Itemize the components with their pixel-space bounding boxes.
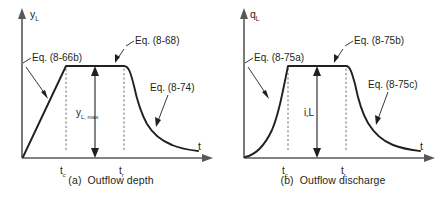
panel-outflow-discharge: qL t i*L Eq. (8-75a) bbox=[222, 0, 444, 201]
i-star-l-label: i*L bbox=[304, 107, 315, 120]
leader-arrowhead-8-75c bbox=[375, 115, 381, 125]
y-l-max-subscript: L, max bbox=[81, 114, 98, 120]
y-axis-group bbox=[18, 8, 26, 158]
y-axis-subscript: L bbox=[35, 15, 39, 22]
leader-tick-8-66b bbox=[23, 58, 31, 63]
annotation-label-8-75a: Eq. (8-75a) bbox=[254, 52, 304, 63]
dimension-arrow-up bbox=[313, 66, 321, 76]
x-axis-group bbox=[22, 154, 213, 162]
leader-arrowhead-8-75a bbox=[262, 90, 269, 99]
y-l-max-dimension-group: yL, max bbox=[76, 66, 99, 158]
y-axis-group bbox=[240, 8, 248, 158]
annotation-label-8-75b: Eq. (8-75b) bbox=[354, 35, 404, 46]
dimension-arrow-down bbox=[91, 148, 99, 158]
panel-outflow-depth: yL t yL, max Eq. (8-66b) bbox=[0, 0, 222, 201]
y-axis-subscript: L bbox=[256, 15, 260, 22]
x-axis-group bbox=[244, 154, 435, 162]
figure-container: yL t yL, max Eq. (8-66b) bbox=[0, 0, 444, 201]
x-axis-arrowhead bbox=[202, 154, 213, 162]
leader-arrowhead-8-74 bbox=[155, 117, 161, 127]
panel-b-caption: (b) Outflow discharge bbox=[222, 174, 444, 186]
dimension-arrow-up bbox=[91, 66, 99, 76]
y-axis-arrowhead bbox=[18, 8, 26, 19]
i-star-l-trailing: L bbox=[309, 107, 315, 118]
annotation-eq-8-74: Eq. (8-74) bbox=[150, 82, 194, 127]
leader-tick-8-68 bbox=[126, 41, 134, 46]
annotation-eq-8-68: Eq. (8-68) bbox=[115, 35, 179, 63]
annotation-label-8-66b: Eq. (8-66b) bbox=[32, 52, 82, 63]
y-axis-arrowhead bbox=[240, 8, 248, 19]
y-axis-label: yL bbox=[30, 8, 39, 22]
annotation-label-8-75c: Eq. (8-75c) bbox=[368, 79, 417, 90]
leader-line-8-75a bbox=[248, 67, 266, 94]
leader-line-8-74 bbox=[158, 95, 168, 121]
i-star-l-dimension-group: i*L bbox=[304, 66, 321, 158]
annotation-label-8-68: Eq. (8-68) bbox=[135, 35, 179, 46]
annotation-eq-8-75a: Eq. (8-75a) bbox=[245, 52, 304, 99]
hydrograph-curve-depth bbox=[23, 66, 198, 157]
annotation-eq-8-75b: Eq. (8-75b) bbox=[334, 35, 404, 63]
leader-line-8-66b bbox=[26, 67, 45, 94]
panel-a-caption: (a) Outflow depth bbox=[0, 174, 222, 186]
y-axis-label: qL bbox=[250, 8, 260, 22]
annotation-eq-8-75c: Eq. (8-75c) bbox=[368, 79, 417, 125]
dimension-arrow-down bbox=[313, 148, 321, 158]
leader-arrowhead-8-66b bbox=[41, 90, 48, 99]
leader-tick-8-75a bbox=[245, 58, 253, 63]
x-axis-arrowhead bbox=[424, 154, 435, 162]
leader-line-8-75c bbox=[378, 92, 388, 119]
annotation-label-8-74: Eq. (8-74) bbox=[150, 82, 194, 93]
annotation-eq-8-66b: Eq. (8-66b) bbox=[23, 52, 82, 99]
leader-tick-8-75b bbox=[345, 41, 353, 46]
